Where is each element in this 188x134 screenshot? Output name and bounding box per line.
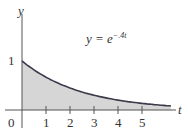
t-axis-label: t bbox=[178, 103, 182, 116]
y-axis-label: y bbox=[18, 4, 24, 17]
x-tick-label: 3 bbox=[91, 116, 98, 129]
x-tick-label: 5 bbox=[139, 116, 146, 129]
y-tick-1: 1 bbox=[8, 54, 15, 67]
shaded-area bbox=[22, 61, 171, 110]
equation-label: y = e−.4t bbox=[86, 32, 126, 45]
x-tick-label: 4 bbox=[115, 116, 122, 129]
origin-label: 0 bbox=[8, 116, 15, 129]
x-tick-label: 1 bbox=[43, 116, 50, 129]
plot-area bbox=[0, 0, 188, 134]
x-tick-label: 2 bbox=[67, 116, 74, 129]
